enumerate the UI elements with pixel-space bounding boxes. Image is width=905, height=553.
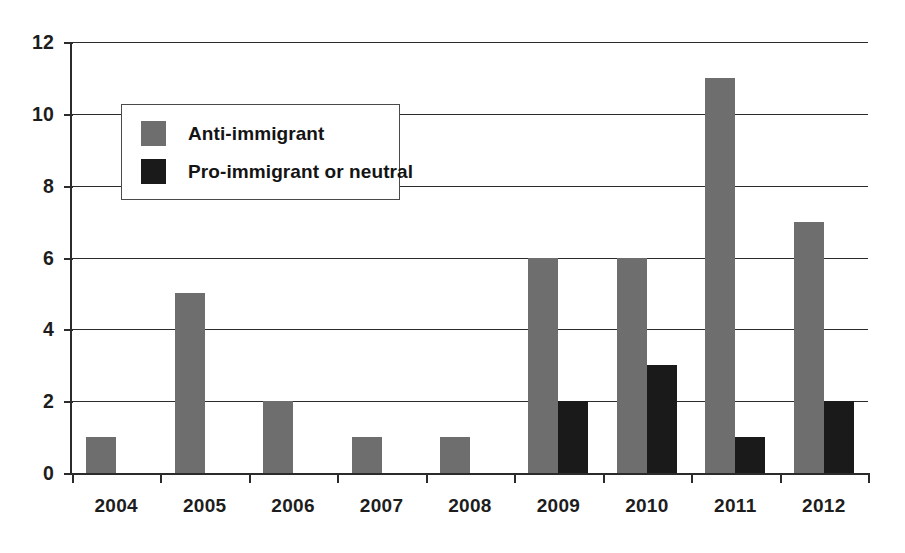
bar xyxy=(647,365,677,473)
y-axis-tick xyxy=(64,186,73,188)
bar xyxy=(263,401,293,473)
x-axis-tick-label: 2005 xyxy=(160,495,248,517)
y-axis-tick-label: 2 xyxy=(0,390,54,413)
bar xyxy=(735,437,765,473)
bar xyxy=(175,293,205,473)
y-axis-tick-label: 4 xyxy=(0,318,54,341)
x-axis-tick xyxy=(426,473,428,483)
bar xyxy=(440,437,470,473)
legend-entry-anti-immigrant: Anti-immigrant xyxy=(141,121,325,146)
y-axis-tick-label: 10 xyxy=(0,103,54,126)
legend-label: Pro-immigrant or neutral xyxy=(188,161,413,183)
y-axis-tick-label: 8 xyxy=(0,175,54,198)
y-axis-tick xyxy=(64,258,73,260)
legend-swatch-icon xyxy=(141,121,166,146)
x-axis-tick xyxy=(337,473,339,483)
legend-label: Anti-immigrant xyxy=(188,123,325,145)
x-axis-tick xyxy=(780,473,782,483)
x-axis-tick xyxy=(868,473,870,483)
x-axis-line xyxy=(64,473,870,475)
bar xyxy=(352,437,382,473)
x-axis-tick-label: 2012 xyxy=(780,495,868,517)
x-axis-tick xyxy=(249,473,251,483)
chart-legend: Anti-immigrant Pro-immigrant or neutral xyxy=(121,104,400,200)
y-axis-tick xyxy=(64,114,73,116)
x-axis-tick xyxy=(603,473,605,483)
x-axis-tick-label: 2011 xyxy=(691,495,779,517)
x-axis-tick-label: 2010 xyxy=(603,495,691,517)
x-axis-tick xyxy=(160,473,162,483)
x-axis-tick-label: 2006 xyxy=(249,495,337,517)
bar xyxy=(824,401,854,473)
x-axis-tick-label: 2009 xyxy=(514,495,602,517)
y-axis-tick xyxy=(64,42,73,44)
gridline xyxy=(72,42,868,43)
bar xyxy=(558,401,588,473)
x-axis-tick-label: 2004 xyxy=(72,495,160,517)
x-axis-tick xyxy=(72,473,74,483)
x-axis-tick-label: 2007 xyxy=(337,495,425,517)
bar xyxy=(86,437,116,473)
y-axis-tick-label: 6 xyxy=(0,247,54,270)
y-axis-tick-label: 12 xyxy=(0,31,54,54)
legend-entry-pro-immigrant-or-neutral: Pro-immigrant or neutral xyxy=(141,159,413,184)
gridline xyxy=(72,258,868,259)
bar xyxy=(794,222,824,473)
y-axis-tick-label: 0 xyxy=(0,462,54,485)
bar-chart: 024681012 200420052006200720082009201020… xyxy=(0,0,905,553)
y-axis-tick xyxy=(64,401,73,403)
bar xyxy=(617,258,647,474)
y-axis-tick xyxy=(64,329,73,331)
legend-swatch-icon xyxy=(141,159,166,184)
x-axis-tick xyxy=(691,473,693,483)
bar xyxy=(528,258,558,474)
x-axis-tick-label: 2008 xyxy=(426,495,514,517)
x-axis-tick xyxy=(514,473,516,483)
bar xyxy=(705,78,735,473)
